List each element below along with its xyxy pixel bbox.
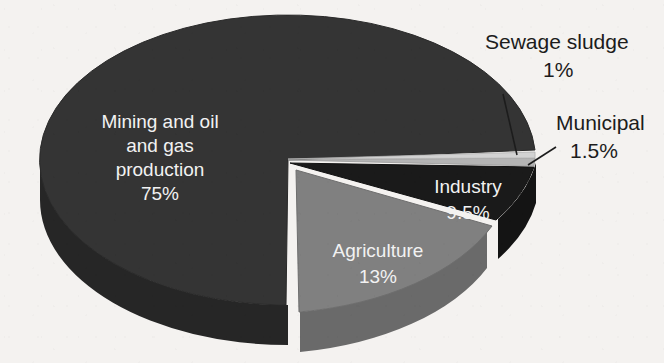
label-mining-line1: Mining and oil (101, 111, 218, 132)
callout-municipal-value: 1.5% (570, 139, 618, 162)
callout-municipal-name: Municipal (556, 111, 645, 134)
label-agriculture-name: Agriculture (333, 240, 424, 261)
label-mining-line2: and gas (126, 135, 194, 156)
label-mining-line3: production (116, 159, 205, 180)
label-industry-value: 9.5% (446, 202, 489, 223)
callout-sewage-sludge-value: 1% (543, 58, 573, 81)
label-industry-name: Industry (434, 176, 502, 197)
label-mining-value: 75% (141, 183, 179, 204)
pie-chart-figure: Mining and oil and gas production 75% Ag… (0, 0, 664, 363)
callout-sewage-sludge-name: Sewage sludge (485, 30, 629, 53)
pie-chart-svg: Mining and oil and gas production 75% Ag… (0, 0, 664, 363)
label-agriculture-value: 13% (359, 266, 397, 287)
